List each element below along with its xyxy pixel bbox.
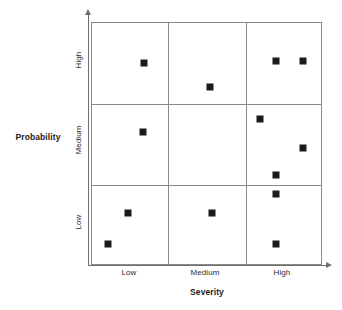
data-marker[interactable] bbox=[273, 58, 280, 65]
x-axis-arrow-icon bbox=[326, 262, 332, 268]
x-tick-label-high: High bbox=[274, 268, 291, 277]
grid-line-horizontal-0 bbox=[92, 104, 321, 105]
data-marker[interactable] bbox=[209, 210, 216, 217]
data-marker[interactable] bbox=[273, 191, 280, 198]
data-marker[interactable] bbox=[140, 129, 147, 136]
data-marker[interactable] bbox=[273, 241, 280, 248]
x-tick-label-low: Low bbox=[122, 268, 137, 277]
y-tick-label-high: High bbox=[74, 52, 83, 69]
y-axis-arrow-icon bbox=[85, 9, 91, 15]
data-marker[interactable] bbox=[257, 116, 264, 123]
y-tick-label-low: Low bbox=[74, 215, 83, 230]
data-marker[interactable] bbox=[125, 210, 132, 217]
y-axis-line bbox=[88, 14, 89, 266]
data-marker[interactable] bbox=[273, 172, 280, 179]
data-marker[interactable] bbox=[207, 84, 214, 91]
grid-line-vertical-1 bbox=[246, 23, 247, 264]
x-tick-label-medium: Medium bbox=[190, 268, 219, 277]
plot-area bbox=[91, 22, 322, 265]
data-marker[interactable] bbox=[141, 60, 148, 67]
grid-line-vertical-0 bbox=[168, 23, 169, 264]
x-axis-title: Severity bbox=[190, 287, 224, 297]
data-marker[interactable] bbox=[300, 58, 307, 65]
data-marker[interactable] bbox=[300, 145, 307, 152]
x-axis-line bbox=[88, 265, 328, 266]
grid-line-horizontal-1 bbox=[92, 185, 321, 186]
y-tick-label-medium: Medium bbox=[74, 125, 83, 154]
data-marker[interactable] bbox=[105, 241, 112, 248]
risk-matrix-chart: LowMediumHigh HighMediumLow Probability … bbox=[0, 0, 342, 310]
y-axis-title: Probability bbox=[15, 132, 60, 142]
